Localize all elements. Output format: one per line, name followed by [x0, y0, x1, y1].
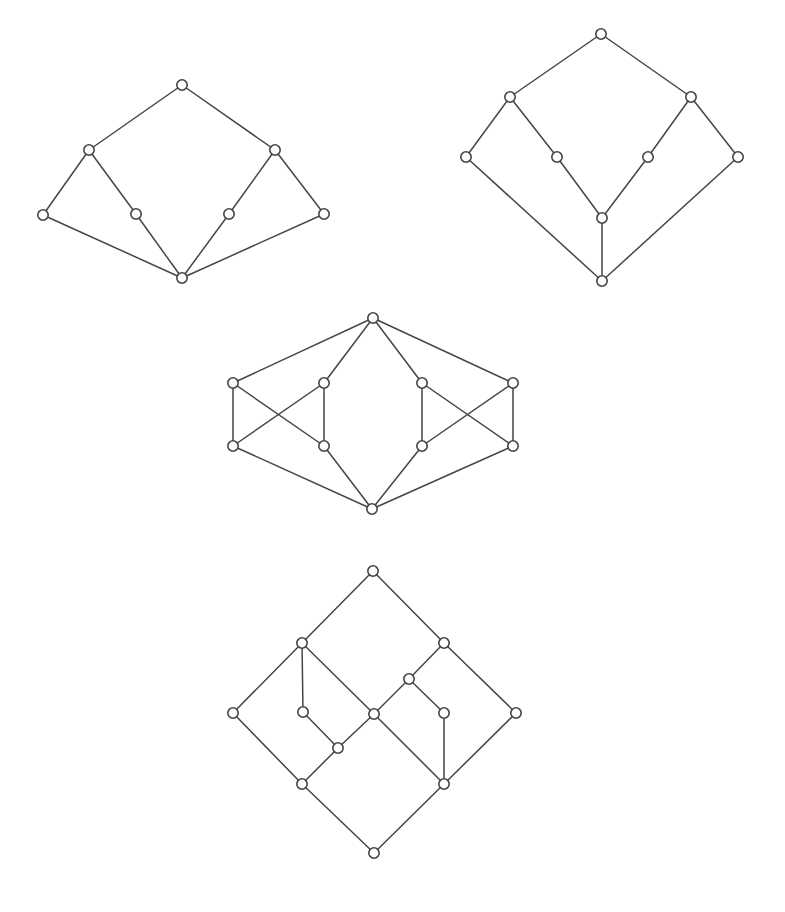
lattice-node-bottom: [597, 276, 607, 286]
lattice-middle-nodes: [228, 313, 518, 514]
lattice-edge: [373, 571, 444, 643]
lattice-edge: [444, 643, 516, 713]
lattice-edge: [302, 748, 338, 784]
lattice-edge: [373, 318, 513, 383]
lattice-top-right: [461, 29, 743, 286]
figure-root: [0, 0, 785, 912]
lattice-node-mid-left: [552, 152, 562, 162]
lattice-edge: [302, 571, 373, 643]
lattice-node-upper-right: [439, 638, 449, 648]
lattice-node-upper-right: [270, 145, 280, 155]
lattice-top-right-edges: [466, 34, 738, 281]
lattice-node-mid-left: [131, 209, 141, 219]
lattice-edge: [374, 679, 409, 714]
hasse-diagram-canvas: [0, 0, 785, 912]
lattice-edge: [602, 157, 738, 281]
lattice-node-outer-right-upper: [508, 378, 518, 388]
lattice-edge: [409, 679, 444, 713]
lattice-node-mid-right: [224, 209, 234, 219]
lattice-node-far-left: [38, 210, 48, 220]
lattice-edge: [182, 214, 324, 278]
lattice-edge: [466, 157, 602, 281]
lattice-node-upper-left: [84, 145, 94, 155]
lattice-node-inner-right-upper: [417, 378, 427, 388]
lattice-top-left-nodes: [38, 80, 329, 283]
lattice-bottom: [228, 566, 521, 858]
lattice-edge: [648, 97, 691, 157]
lattice-node-far-right: [733, 152, 743, 162]
lattice-edge: [233, 713, 302, 784]
lattice-node-mid-right: [643, 152, 653, 162]
diagrams-layer: [38, 29, 743, 858]
lattice-edge: [43, 215, 182, 278]
lattice-edge: [233, 643, 302, 713]
lattice-node-top: [368, 566, 378, 576]
lattice-edge: [324, 446, 372, 509]
lattice-edge: [372, 446, 513, 509]
lattice-edge: [373, 318, 422, 383]
lattice-node-inner-left-lower: [319, 441, 329, 451]
lattice-node-bottom: [177, 273, 187, 283]
lattice-node-left-branch-lower: [333, 743, 343, 753]
lattice-node-top: [177, 80, 187, 90]
lattice-edge: [43, 150, 89, 215]
lattice-edge: [275, 150, 324, 214]
lattice-node-inner-left-upper: [319, 378, 329, 388]
lattice-edge: [233, 318, 373, 383]
lattice-node-bottom: [367, 504, 377, 514]
lattice-node-far-left: [461, 152, 471, 162]
lattice-node-outer-left-lower: [228, 441, 238, 451]
lattice-edge: [303, 712, 338, 748]
lattice-node-center: [369, 709, 379, 719]
lattice-edge: [510, 34, 601, 97]
lattice-node-top: [368, 313, 378, 323]
lattice-edge: [302, 643, 374, 714]
lattice-node-far-left: [228, 708, 238, 718]
lattice-edge: [324, 318, 373, 383]
lattice-node-left-branch-mid: [298, 707, 308, 717]
lattice-node-center: [597, 213, 607, 223]
lattice-edge: [409, 643, 444, 679]
lattice-edge: [602, 157, 648, 218]
lattice-edge: [302, 784, 374, 853]
lattice-edge: [601, 34, 691, 97]
lattice-node-bottom: [369, 848, 379, 858]
lattice-edge: [372, 446, 422, 509]
lattice-edge: [136, 214, 182, 278]
lattice-node-lower-right: [439, 779, 449, 789]
lattice-edge: [89, 85, 182, 150]
lattice-edge: [444, 713, 516, 784]
lattice-edge: [182, 214, 229, 278]
lattice-edge: [691, 97, 738, 157]
lattice-top-left-edges: [43, 85, 324, 278]
lattice-edge: [374, 714, 444, 784]
lattice-edge: [374, 784, 444, 853]
lattice-node-right-branch-upper: [404, 674, 414, 684]
lattice-top-left: [38, 80, 329, 283]
lattice-edge: [89, 150, 136, 214]
lattice-node-outer-left-upper: [228, 378, 238, 388]
lattice-node-top: [596, 29, 606, 39]
lattice-edge: [182, 85, 275, 150]
lattice-node-far-right: [319, 209, 329, 219]
lattice-edge: [233, 446, 372, 509]
lattice-edge: [510, 97, 557, 157]
lattice-node-inner-right-lower: [417, 441, 427, 451]
lattice-edge: [302, 643, 303, 712]
lattice-node-lower-left: [297, 779, 307, 789]
lattice-node-far-right: [511, 708, 521, 718]
lattice-edge: [466, 97, 510, 157]
lattice-edge: [557, 157, 602, 218]
lattice-edge: [338, 714, 374, 748]
lattice-bottom-nodes: [228, 566, 521, 858]
lattice-node-right-branch-mid: [439, 708, 449, 718]
lattice-edge: [229, 150, 275, 214]
lattice-node-outer-right-lower: [508, 441, 518, 451]
lattice-node-upper-left: [505, 92, 515, 102]
lattice-middle-edges: [233, 318, 513, 509]
lattice-middle: [228, 313, 518, 514]
lattice-node-upper-right: [686, 92, 696, 102]
lattice-node-upper-left: [297, 638, 307, 648]
